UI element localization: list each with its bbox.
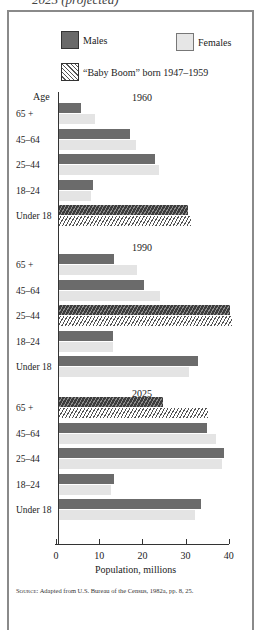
female-bar: [59, 265, 137, 275]
bar-group: 45–64: [0, 280, 263, 304]
hatched-swatch-icon: [61, 63, 79, 81]
figure-caption-top: 2025 (projected): [32, 0, 119, 8]
age-category-label: 65 +: [16, 260, 33, 270]
bar-group: 45–64: [0, 423, 263, 447]
age-category-label: 65 +: [16, 109, 33, 119]
male-bar: [59, 499, 201, 509]
female-swatch-icon: [176, 33, 194, 51]
x-tick-label: 0: [54, 550, 59, 561]
female-bar: [59, 434, 216, 444]
source-note: Source: Adapted from U.S. Bureau of the …: [16, 587, 193, 594]
x-tick: [56, 539, 57, 544]
male-bar: [59, 154, 155, 164]
y-axis-line: [58, 92, 59, 544]
bar-group: 18–24: [0, 331, 263, 355]
male-swatch-icon: [61, 31, 79, 49]
male-bar: [59, 331, 113, 341]
age-category-label: Under 18: [16, 211, 52, 221]
x-tick-label: 10: [94, 550, 104, 561]
female-bar: [59, 408, 208, 418]
female-bar: [59, 216, 191, 226]
x-tick: [142, 539, 143, 544]
age-category-label: Under 18: [16, 362, 52, 372]
female-bar: [59, 485, 111, 495]
x-tick: [229, 539, 230, 544]
source-text: Adapted from U.S. Bureau of the Census, …: [40, 587, 194, 594]
legend-females-label: Females: [198, 37, 231, 48]
female-bar: [59, 316, 232, 326]
age-category-label: 25–44: [16, 160, 40, 170]
bar-group: 65 +: [0, 254, 263, 278]
male-bar: [59, 205, 188, 215]
male-bar: [59, 280, 144, 290]
bar-group: 65 +: [0, 103, 263, 127]
female-bar: [59, 459, 222, 469]
bar-group: 25–44: [0, 154, 263, 178]
female-bar: [59, 140, 136, 150]
legend-baby-boom: “Baby Boom” born 1947–1959: [61, 63, 208, 81]
male-bar: [59, 180, 93, 190]
x-tick-label: 30: [181, 550, 191, 561]
female-bar: [59, 165, 159, 175]
age-category-label: 18–24: [16, 480, 40, 490]
female-bar: [59, 291, 160, 301]
legend-males: Males: [61, 31, 107, 49]
male-bar: [59, 448, 224, 458]
age-category-label: Under 18: [16, 505, 52, 515]
age-category-label: 18–24: [16, 337, 40, 347]
bar-group: 65 +: [0, 397, 263, 421]
bar-group: Under 18: [0, 205, 263, 229]
male-bar: [59, 397, 163, 407]
legend-females: Females: [176, 33, 231, 51]
source-prefix: Source:: [16, 587, 38, 594]
male-bar: [59, 129, 130, 139]
panel-year-1960: 1960: [132, 92, 152, 103]
bar-group: Under 18: [0, 356, 263, 380]
male-bar: [59, 254, 114, 264]
male-bar: [59, 103, 81, 113]
female-bar: [59, 510, 195, 520]
x-axis-line: [55, 544, 229, 545]
bar-group: Under 18: [0, 499, 263, 523]
x-tick: [99, 539, 100, 544]
female-bar: [59, 342, 113, 352]
x-tick-label: 20: [137, 550, 147, 561]
age-category-label: 65 +: [16, 403, 33, 413]
age-category-label: 45–64: [16, 429, 40, 439]
age-category-label: 25–44: [16, 311, 40, 321]
age-category-label: 25–44: [16, 454, 40, 464]
bar-group: 45–64: [0, 129, 263, 153]
bar-group: 25–44: [0, 305, 263, 329]
male-bar: [59, 356, 198, 366]
male-bar: [59, 474, 114, 484]
panel-year-1990: 1990: [132, 242, 152, 253]
bar-group: 18–24: [0, 474, 263, 498]
x-tick-label: 40: [224, 550, 234, 561]
legend-males-label: Males: [83, 35, 107, 46]
x-axis-label: Population, millions: [95, 564, 176, 575]
age-category-label: 18–24: [16, 186, 40, 196]
bar-group: 25–44: [0, 448, 263, 472]
female-bar: [59, 114, 95, 124]
female-bar: [59, 191, 91, 201]
male-bar: [59, 423, 207, 433]
age-category-label: 45–64: [16, 135, 40, 145]
male-bar: [59, 305, 230, 315]
bar-group: 18–24: [0, 180, 263, 204]
age-axis-header: Age: [33, 91, 50, 102]
legend-baby-boom-label: “Baby Boom” born 1947–1959: [83, 67, 208, 78]
x-tick: [186, 539, 187, 544]
female-bar: [59, 367, 189, 377]
age-category-label: 45–64: [16, 286, 40, 296]
